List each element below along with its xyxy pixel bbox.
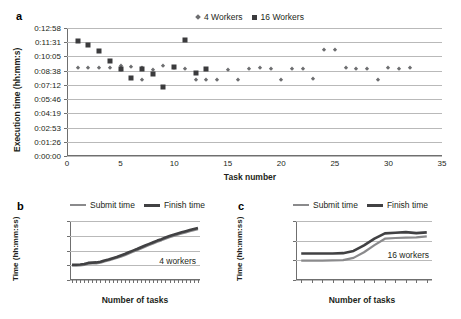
y-tick-label: 0:02:53 [1, 123, 61, 132]
data-point-square [97, 49, 102, 54]
x-tick-mark [72, 280, 73, 283]
data-point-diamond [129, 65, 134, 70]
x-tick-mark [333, 280, 334, 283]
chart-b-annotation: 4 workers [159, 256, 196, 266]
x-tick-mark [76, 280, 77, 283]
x-tick-mark [416, 280, 417, 283]
y-tick-label: 0:01:26 [1, 137, 61, 146]
chart-b-x-axis-title: Number of tasks [75, 295, 195, 305]
x-tick-mark [80, 280, 81, 283]
line-swatch-icon [367, 204, 383, 207]
data-point-square [172, 65, 177, 70]
y-tick-mark [64, 113, 67, 114]
line-swatch-icon [293, 204, 309, 207]
x-tick-label: 10 [170, 159, 179, 168]
chart-b-y-axis-title: Time (hh:mm:ss) [11, 217, 20, 281]
chart-b-legend: Submit time Finish time [70, 200, 205, 210]
chart-a-legend: 4 Workers 16 Workers [196, 12, 304, 22]
chart-b-series-lines [70, 221, 200, 280]
data-point-diamond [386, 66, 391, 71]
grid-line [67, 113, 442, 114]
x-tick-label: 35 [438, 159, 447, 168]
x-tick-mark [178, 280, 179, 283]
x-tick-label: 0 [65, 159, 69, 168]
legend-label-submit-time: Submit time [313, 200, 358, 210]
data-point-square [204, 66, 209, 71]
x-tick-mark [182, 280, 183, 283]
y-tick-label: 0:12:58 [1, 24, 61, 33]
legend-item-submit-time: Submit time [293, 200, 358, 210]
data-point-diamond [279, 78, 284, 83]
x-tick-mark [96, 280, 97, 283]
x-tick-mark [84, 280, 85, 283]
chart-c-plot-area: 16 workers [296, 221, 432, 280]
x-tick-mark [301, 280, 302, 283]
y-tick-mark [293, 280, 296, 281]
chart-a-x-axis-title: Task number [190, 172, 310, 182]
data-point-diamond [375, 78, 380, 83]
x-tick-mark [190, 280, 191, 283]
chart-a-execution-time: a 4 Workers 16 Workers Execution time (h… [0, 0, 461, 185]
data-point-square [193, 70, 198, 75]
grid-line [67, 99, 442, 100]
y-tick-mark [64, 28, 67, 29]
data-point-square [161, 84, 166, 89]
grid-line [67, 28, 442, 29]
chart-b-plot-area: 4 workers [70, 221, 200, 280]
y-tick-label: 0:07:12 [1, 80, 61, 89]
y-tick-label: 0:11:31 [1, 38, 61, 47]
data-point-diamond [161, 64, 166, 69]
y-tick-label: 0:04:19 [1, 109, 61, 118]
y-tick-mark [64, 71, 67, 72]
data-point-square [75, 38, 80, 43]
x-tick-mark [385, 280, 386, 283]
x-tick-label: 20 [277, 159, 286, 168]
x-tick-mark [374, 280, 375, 283]
x-tick-mark [161, 280, 162, 283]
x-tick-mark [153, 280, 154, 283]
chart-c-x-axis-title: Number of tasks [302, 295, 422, 305]
legend-item-16-workers: 16 Workers [252, 12, 304, 22]
grid-line [70, 280, 200, 281]
x-tick-mark [125, 280, 126, 283]
x-tick-label: 15 [223, 159, 232, 168]
data-point-square [150, 71, 155, 76]
x-tick-mark [109, 280, 110, 283]
data-point-diamond [215, 78, 220, 83]
y-tick-mark [67, 280, 70, 281]
data-point-square [118, 66, 123, 71]
legend-label-finish-time: Finish time [387, 200, 428, 210]
y-tick-mark [64, 156, 67, 157]
x-tick-mark [354, 280, 355, 283]
x-tick-mark [129, 280, 130, 283]
chart-a-y-axis [67, 28, 68, 156]
grid-line [67, 142, 442, 143]
grid-line [67, 156, 442, 157]
x-tick-mark [100, 280, 101, 283]
grid-line [67, 56, 442, 57]
x-tick-mark [395, 280, 396, 283]
legend-label-16-workers: 16 Workers [261, 12, 304, 22]
grid-line [67, 128, 442, 129]
x-tick-mark [157, 280, 158, 283]
x-tick-mark [170, 280, 171, 283]
x-tick-mark [117, 280, 118, 283]
diamond-marker-icon [195, 14, 201, 20]
x-tick-mark [312, 280, 313, 283]
panel-b-label: b [17, 200, 24, 212]
data-point-diamond [204, 78, 209, 83]
grid-line [67, 85, 442, 86]
x-tick-mark [113, 280, 114, 283]
x-tick-mark [194, 280, 195, 283]
data-point-diamond [322, 47, 327, 52]
panel-a-label: a [16, 10, 22, 22]
y-tick-label: 0:10:05 [1, 52, 61, 61]
chart-a-plot-area [67, 28, 442, 156]
legend-item-4-workers: 4 Workers [196, 12, 243, 22]
x-tick-label: 30 [384, 159, 393, 168]
x-tick-mark [133, 280, 134, 283]
grid-line [67, 71, 442, 72]
x-tick-mark [364, 280, 365, 283]
legend-item-finish-time: Finish time [367, 200, 428, 210]
x-tick-mark [165, 280, 166, 283]
